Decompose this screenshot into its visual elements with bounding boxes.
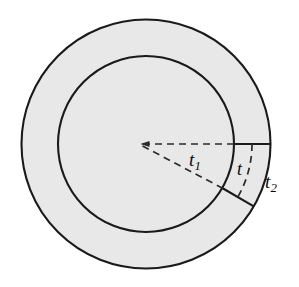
annulus-diagram	[0, 0, 299, 287]
figure-container: t1 t t2	[0, 0, 299, 287]
label-t2: t2	[265, 172, 277, 195]
label-t1: t1	[189, 150, 201, 173]
label-t: t	[237, 160, 242, 181]
